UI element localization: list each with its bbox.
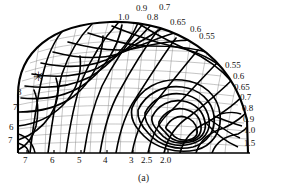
top-label-0-7: 0.7 bbox=[159, 3, 170, 12]
top-label-1-0: 1.0 bbox=[118, 13, 129, 22]
operating-point-marker: ✳ bbox=[33, 70, 44, 83]
left-label-6: 6 bbox=[9, 123, 14, 132]
x-tick-label-3: 3 bbox=[129, 156, 134, 165]
x-tick-label-4: 4 bbox=[103, 156, 108, 165]
x-tick-label-2-5: 2.5 bbox=[141, 156, 152, 165]
x-tick-label-6: 6 bbox=[50, 156, 55, 165]
top-label-0-55: 0.55 bbox=[199, 32, 215, 41]
right-label-1-0: 1.0 bbox=[244, 126, 255, 135]
right-label-0-7: 0.7 bbox=[240, 93, 251, 102]
right-label-0-65: 0.65 bbox=[234, 83, 250, 92]
left-label-7-upper: 7 bbox=[13, 103, 18, 112]
top-label-0-9: 0.9 bbox=[136, 4, 147, 13]
right-label-0-55: 0.55 bbox=[225, 61, 241, 70]
right-label-0-6: 0.6 bbox=[233, 72, 244, 81]
right-label-0-8: 0.8 bbox=[242, 104, 253, 113]
performance-map-figure: 1.0 0.9 0.8 0.7 0.65 0.6 0.55 0.55 0.6 0… bbox=[0, 0, 294, 190]
x-tick-label-7: 7 bbox=[23, 156, 28, 165]
x-tick-label-2-0: 2.0 bbox=[160, 156, 171, 165]
left-label-7-lower: 7 bbox=[8, 136, 13, 145]
top-label-0-65: 0.65 bbox=[170, 18, 186, 27]
left-label-8: 8 bbox=[17, 88, 22, 97]
x-tick-label-5: 5 bbox=[77, 156, 82, 165]
top-label-0-8: 0.8 bbox=[147, 13, 158, 22]
figure-caption: (a) bbox=[138, 172, 149, 183]
right-label-1-5: 1.5 bbox=[244, 139, 255, 148]
right-label-0-9: 0.9 bbox=[243, 115, 254, 124]
